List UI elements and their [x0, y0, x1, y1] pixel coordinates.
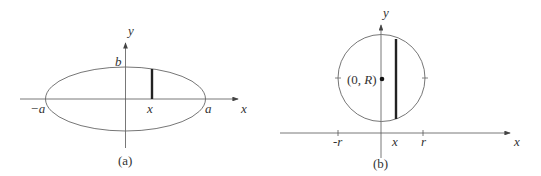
- b-x-label: x: [513, 134, 520, 149]
- a-pos-a-label: a: [205, 101, 212, 116]
- b-pos-r-label: r: [421, 134, 427, 149]
- b-neg-r-label: -r: [333, 134, 343, 149]
- a-caption: (a): [118, 153, 132, 168]
- a-y-label: y: [126, 23, 134, 38]
- b-caption: (b): [373, 156, 388, 171]
- a-neg-a-label: −a: [30, 101, 46, 116]
- figure-canvas: y b −a x a x (a) y (0, R) -r x r x (b): [0, 0, 541, 176]
- a-b-label: b: [115, 54, 122, 69]
- b-slice-x-label: x: [391, 134, 398, 149]
- b-center-label: (0, R): [347, 72, 377, 87]
- a-slice-x-label: x: [146, 101, 153, 116]
- figure-b-circle: y (0, R) -r x r x (b): [280, 5, 520, 171]
- a-x-label: x: [240, 101, 247, 116]
- b-y-label: y: [381, 5, 389, 20]
- figure-a-ellipse: y b −a x a x (a): [20, 23, 247, 168]
- b-center-dot: [380, 77, 385, 82]
